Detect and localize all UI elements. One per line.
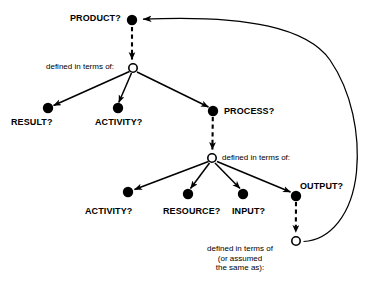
- node-activity1[interactable]: [113, 103, 123, 113]
- diagram-canvas: PRODUCT? RESULT? ACTIVITY? PROCESS? ACTI…: [0, 0, 370, 282]
- node-result[interactable]: [43, 103, 53, 113]
- node-label-product: PRODUCT?: [70, 13, 121, 23]
- relation-label-defined-in-terms-of-2: defined in terms of:: [222, 153, 290, 162]
- node-label-result: RESULT?: [11, 117, 53, 127]
- node-label-activity-lower: ACTIVITY?: [85, 206, 132, 216]
- relation-label-line-3: the same as):: [198, 263, 282, 273]
- node-defn3[interactable]: [292, 237, 300, 245]
- node-activity2[interactable]: [123, 187, 133, 197]
- node-input[interactable]: [238, 189, 248, 199]
- relation-label-defined-in-terms-of-1: defined in terms of:: [46, 62, 114, 71]
- edge-defn1-to-activity1: [119, 73, 132, 103]
- relation-label-defined-or-assumed: defined in terms of (or assumed the same…: [198, 244, 282, 273]
- relation-label-line-1: defined in terms of: [198, 244, 282, 254]
- node-defn1[interactable]: [129, 64, 137, 72]
- edge-defn1-to-result: [54, 72, 130, 106]
- node-label-activity-upper: ACTIVITY?: [95, 117, 142, 127]
- relation-label-line-2: (or assumed: [198, 254, 282, 264]
- node-resource[interactable]: [183, 189, 193, 199]
- node-product[interactable]: [127, 15, 137, 25]
- node-defn2[interactable]: [208, 154, 216, 162]
- edge-defn2-to-input: [215, 163, 240, 189]
- diagram-graphics: [0, 0, 370, 282]
- node-label-process: PROCESS?: [224, 106, 274, 116]
- node-label-output: OUTPUT?: [300, 181, 343, 191]
- node-process[interactable]: [208, 106, 218, 116]
- node-label-input: INPUT?: [232, 206, 265, 216]
- node-label-resource: RESOURCE?: [163, 206, 220, 216]
- edge-defn2-to-activity2: [135, 162, 209, 190]
- edge-defn1-to-process: [137, 72, 209, 107]
- node-output[interactable]: [291, 191, 301, 201]
